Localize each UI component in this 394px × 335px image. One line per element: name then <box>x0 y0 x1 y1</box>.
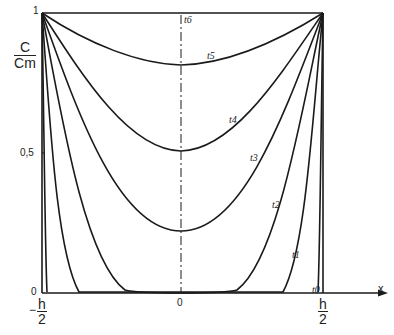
y-tick-label-0-5: 0,5 <box>20 147 34 158</box>
x-axis-label: x <box>378 282 384 294</box>
curve-t4 <box>42 13 323 151</box>
curve-label-t3: t3 <box>250 152 258 163</box>
concentration-profile-chart <box>0 0 394 335</box>
curve-t5 <box>42 13 323 65</box>
curve-t1 <box>42 13 323 292</box>
frac-den: 2 <box>318 312 328 326</box>
curve-t2 <box>42 13 323 293</box>
x-tick-label-neg-half-h: h 2 <box>37 297 47 326</box>
x-tick-minus-sign: − <box>29 303 36 317</box>
x-tick-label-0: 0 <box>177 297 183 308</box>
y-label-numerator: C <box>14 40 36 56</box>
curve-label-t1: t1 <box>292 249 300 260</box>
curve-label-t4: t4 <box>229 114 237 125</box>
y-tick-label-1: 1 <box>33 5 39 16</box>
curve-label-t2: t2 <box>272 199 280 210</box>
frac-num: h <box>37 297 47 312</box>
frac-den: 2 <box>37 312 47 326</box>
frac-num: h <box>318 297 328 312</box>
y-axis-label: C Cm <box>14 40 36 71</box>
curve-label-t6: t6 <box>184 14 192 25</box>
y-tick-label-0: 0 <box>31 286 37 297</box>
curve-label-t0: t0 <box>312 284 320 295</box>
x-tick-label-half-h: h 2 <box>318 297 328 326</box>
y-label-denominator: Cm <box>14 55 36 71</box>
curve-label-t5: t5 <box>207 50 215 61</box>
